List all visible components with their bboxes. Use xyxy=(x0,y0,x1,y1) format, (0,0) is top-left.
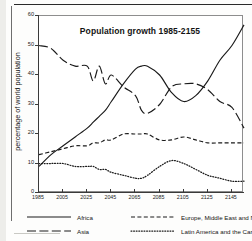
legend-swatch-solid xyxy=(26,213,72,221)
x-axis-line xyxy=(38,192,244,193)
legend-item-latin: Latin America and the Caribbean xyxy=(130,227,250,235)
plot-area xyxy=(38,15,243,192)
series-line-asia xyxy=(39,46,244,129)
figure-container: percentage of world population 010203040… xyxy=(0,0,252,241)
y-tick-10: 10 xyxy=(20,160,34,166)
y-tick-30: 30 xyxy=(20,101,34,107)
x-tick-mark-2105 xyxy=(183,189,184,193)
legend-label: Asia xyxy=(77,228,89,235)
x-tick-2005: 2005 xyxy=(50,195,74,200)
legend-item-africa: Africa xyxy=(26,213,130,221)
chart-lines xyxy=(39,16,244,193)
x-tick-mark-2125 xyxy=(207,189,208,193)
series-line-europe xyxy=(39,134,244,155)
y-axis-line xyxy=(38,15,39,193)
page-top-rule xyxy=(14,4,252,5)
x-tick-mark-2045 xyxy=(110,189,111,193)
x-tick-mark-2065 xyxy=(134,189,135,193)
x-tick-2085: 2085 xyxy=(147,195,171,200)
legend-item-europe: Europe, Middle East and North Africa xyxy=(130,213,250,221)
x-tick-1985: 1985 xyxy=(26,195,50,200)
y-tick-40: 40 xyxy=(20,71,34,77)
x-tick-mark-1985 xyxy=(38,189,39,193)
scan-page-edge xyxy=(0,0,6,241)
legend-swatch-long-dash xyxy=(26,227,72,235)
legend-label: Latin America and the Caribbean xyxy=(181,228,252,235)
y-tick-50: 50 xyxy=(20,42,34,48)
series-line-latin xyxy=(39,160,244,181)
x-tick-2125: 2125 xyxy=(195,195,219,200)
x-tick-mark-2145 xyxy=(231,189,232,193)
x-tick-mark-2085 xyxy=(159,189,160,193)
legend-item-asia: Asia xyxy=(26,227,130,235)
legend-label: Europe, Middle East and North Africa xyxy=(181,214,252,221)
x-tick-2045: 2045 xyxy=(98,195,122,200)
legend-swatch-dot xyxy=(130,227,176,235)
legend-row: AsiaLatin America and the Caribbean xyxy=(26,224,250,238)
chart-title: Population growth 1985-2155 xyxy=(56,26,224,36)
chart-legend: AfricaEurope, Middle East and North Afri… xyxy=(26,210,250,238)
x-tick-2105: 2105 xyxy=(171,195,195,200)
legend-swatch-dash xyxy=(130,213,176,221)
x-tick-mark-2025 xyxy=(86,189,87,193)
y-tick-20: 20 xyxy=(20,130,34,136)
x-tick-2065: 2065 xyxy=(122,195,146,200)
y-tick-60: 60 xyxy=(20,12,34,18)
legend-row: AfricaEurope, Middle East and North Afri… xyxy=(26,210,250,224)
x-tick-mark-2005 xyxy=(62,189,63,193)
x-tick-2145: 2145 xyxy=(219,195,243,200)
x-tick-2025: 2025 xyxy=(74,195,98,200)
legend-label: Africa xyxy=(77,214,93,221)
